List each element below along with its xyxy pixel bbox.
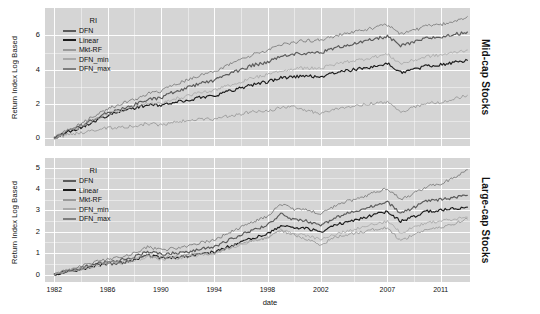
y-tick-label: 1 bbox=[24, 249, 40, 257]
x-tick-label: 1990 bbox=[144, 286, 178, 294]
y-tick-label: 3 bbox=[24, 206, 40, 214]
series-line-mkt-rf bbox=[54, 95, 467, 139]
legend-label: DFN_max bbox=[77, 64, 111, 74]
legend-item-dfn-min[interactable]: DFN_min bbox=[62, 55, 111, 65]
legend-label: Linear bbox=[77, 36, 98, 46]
legend-large-cap[interactable]: RIDFNLinearMkt-RFDFN_minDFN_max bbox=[59, 164, 114, 227]
legend-swatch-icon bbox=[62, 36, 77, 46]
x-tick-label: 1982 bbox=[37, 286, 71, 294]
y-tick-label: 4 bbox=[24, 185, 40, 193]
legend-item-dfn[interactable]: DFN bbox=[62, 176, 111, 186]
legend-swatch-icon bbox=[62, 195, 77, 205]
legend-mid-cap[interactable]: RIDFNLinearMkt-RFDFN_minDFN_max bbox=[59, 14, 114, 77]
y-tick-label: 2 bbox=[24, 100, 40, 108]
legend-label: DFN bbox=[77, 176, 93, 186]
legend-item-linear[interactable]: Linear bbox=[62, 186, 111, 196]
legend-title: RI bbox=[76, 16, 111, 25]
y-tick-label: 2 bbox=[24, 228, 40, 236]
x-tick-label: 2011 bbox=[424, 286, 458, 294]
chart-root: Return Index Log Based Mid-cap Stocks Re… bbox=[0, 0, 540, 314]
series-line-dfn-min bbox=[54, 217, 467, 275]
legend-label: DFN_max bbox=[77, 214, 111, 224]
x-tick-label: 2007 bbox=[370, 286, 404, 294]
legend-swatch-icon bbox=[62, 45, 77, 55]
legend-swatch-icon bbox=[62, 214, 77, 224]
x-tick-label: 2002 bbox=[304, 286, 338, 294]
x-tick-label: 1998 bbox=[250, 286, 284, 294]
legend-label: Mkt-RF bbox=[77, 195, 102, 205]
legend-label: Linear bbox=[77, 186, 98, 196]
series-line-linear bbox=[54, 207, 467, 275]
legend-item-dfn-max[interactable]: DFN_max bbox=[62, 64, 111, 74]
x-tick-label: 1994 bbox=[197, 286, 231, 294]
legend-label: DFN bbox=[77, 26, 93, 36]
y-tick-label: 5 bbox=[24, 164, 40, 172]
strip-text-mid-cap: Mid-cap Stocks bbox=[480, 39, 491, 115]
y-tick-label: 4 bbox=[24, 66, 40, 74]
y-axis-title-facet-0: Return Index Log Based bbox=[10, 12, 20, 142]
legend-item-dfn-max[interactable]: DFN_max bbox=[62, 214, 111, 224]
series-line-dfn bbox=[54, 32, 467, 139]
legend-title: RI bbox=[76, 166, 111, 175]
legend-label: DFN_min bbox=[77, 55, 109, 65]
legend-item-mkt-rf[interactable]: Mkt-RF bbox=[62, 45, 111, 55]
legend-label: DFN_min bbox=[77, 205, 109, 215]
strip-label-large-cap: Large-cap Stocks bbox=[472, 158, 498, 282]
y-tick-label: 0 bbox=[24, 271, 40, 279]
legend-swatch-icon bbox=[62, 26, 77, 36]
y-tick-label: 0 bbox=[24, 134, 40, 142]
legend-item-dfn-min[interactable]: DFN_min bbox=[62, 205, 111, 215]
x-tick-label: 1986 bbox=[91, 286, 125, 294]
legend-item-linear[interactable]: Linear bbox=[62, 36, 111, 46]
legend-swatch-icon bbox=[62, 205, 77, 215]
legend-item-dfn[interactable]: DFN bbox=[62, 26, 111, 36]
legend-item-mkt-rf[interactable]: Mkt-RF bbox=[62, 195, 111, 205]
series-line-linear bbox=[54, 59, 467, 137]
strip-label-mid-cap: Mid-cap Stocks bbox=[472, 8, 498, 146]
y-tick-label: 6 bbox=[24, 31, 40, 39]
legend-swatch-icon bbox=[62, 64, 77, 74]
x-axis-title: date bbox=[0, 298, 540, 307]
series-line-dfn-max bbox=[54, 17, 467, 139]
y-axis-title-facet-1: Return Index Log Based bbox=[10, 162, 20, 282]
legend-swatch-icon bbox=[62, 176, 77, 186]
legend-swatch-icon bbox=[62, 55, 77, 65]
strip-text-large-cap: Large-cap Stocks bbox=[480, 177, 491, 264]
legend-label: Mkt-RF bbox=[77, 45, 102, 55]
legend-swatch-icon bbox=[62, 186, 77, 196]
series-line-dfn-max bbox=[54, 170, 467, 274]
